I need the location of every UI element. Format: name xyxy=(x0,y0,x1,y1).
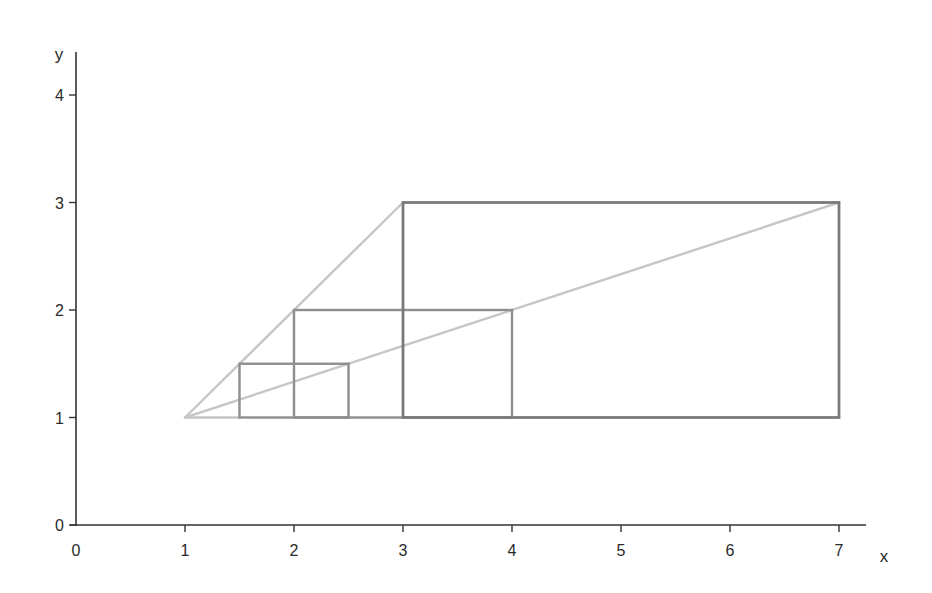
y-tick-label: 2 xyxy=(55,302,64,319)
x-axis-label: x xyxy=(880,547,889,566)
y-tick-label: 0 xyxy=(55,517,64,534)
x-tick-label: 7 xyxy=(835,542,844,559)
x-tick-label: 6 xyxy=(726,542,735,559)
diagram-shapes xyxy=(185,203,839,418)
y-tick-label: 4 xyxy=(55,87,64,104)
y-tick-label: 1 xyxy=(55,410,64,427)
x-tick-label: 1 xyxy=(181,542,190,559)
x-tick-label: 0 xyxy=(72,542,81,559)
y-tick-label: 3 xyxy=(55,195,64,212)
x-tick-label: 3 xyxy=(399,542,408,559)
x-tick-label: 2 xyxy=(290,542,299,559)
y-axis-label: y xyxy=(55,45,64,64)
x-tick-label: 4 xyxy=(508,542,517,559)
x-tick-label: 5 xyxy=(617,542,626,559)
axes: 0123456701234xy xyxy=(55,45,889,566)
scaling-rectangles-diagram: 0123456701234xy xyxy=(0,0,932,593)
